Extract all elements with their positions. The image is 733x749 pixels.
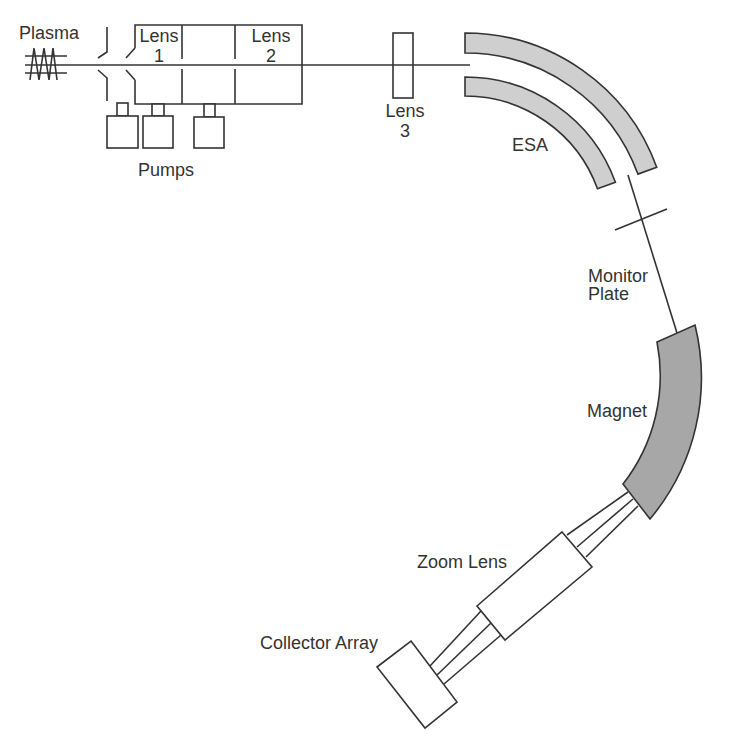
lens1-number: 1 xyxy=(154,46,164,66)
lens2-label: Lens xyxy=(251,26,290,46)
plasma-label: Plasma xyxy=(19,23,80,43)
lens3-number: 3 xyxy=(400,121,410,141)
magnet-label: Magnet xyxy=(587,401,647,421)
esa-label: ESA xyxy=(512,135,548,155)
lens2-number: 2 xyxy=(266,46,276,66)
zoom-lens-label: Zoom Lens xyxy=(417,552,507,572)
lens3-label: Lens xyxy=(385,101,424,121)
mass-spectrometer-diagram: Plasma Lens 1 Lens 2 Pumps Lens 3 ESA Mo… xyxy=(0,0,733,749)
pumps-label: Pumps xyxy=(138,160,194,180)
plate-label: Plate xyxy=(588,284,629,304)
monitor-label: Monitor xyxy=(588,266,648,286)
lens1-label: Lens xyxy=(139,26,178,46)
collector-array-label: Collector Array xyxy=(260,633,378,653)
